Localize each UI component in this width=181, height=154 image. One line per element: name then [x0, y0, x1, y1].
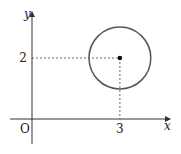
x-tick-label: 3 [116, 122, 124, 136]
coordinate-diagram: y x O 3 2 [0, 0, 181, 154]
origin-label: O [20, 122, 30, 136]
y-axis-label: y [23, 7, 31, 21]
x-axis-label: x [164, 119, 171, 133]
center-point [118, 56, 122, 60]
y-tick-label: 2 [19, 51, 27, 65]
